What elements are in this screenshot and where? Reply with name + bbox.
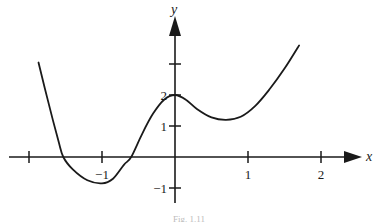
x-tick-label: −1: [95, 167, 109, 182]
function-curve: [39, 45, 300, 183]
x-tick-label: 2: [318, 167, 325, 182]
figure-caption: Fig. 1.11: [0, 214, 378, 222]
y-ticks: −112: [153, 64, 181, 196]
x-axis-arrow-icon: [344, 151, 362, 163]
x-tick-label: 1: [245, 167, 252, 182]
x-ticks: −112: [29, 151, 324, 182]
y-tick-label: 1: [161, 119, 168, 134]
y-axis-label: y: [169, 2, 178, 17]
function-graph: x y −112 −112: [0, 0, 378, 214]
x-axis-label: x: [365, 149, 373, 164]
y-tick-label: −1: [153, 181, 167, 196]
y-axis-arrow-icon: [169, 16, 181, 36]
